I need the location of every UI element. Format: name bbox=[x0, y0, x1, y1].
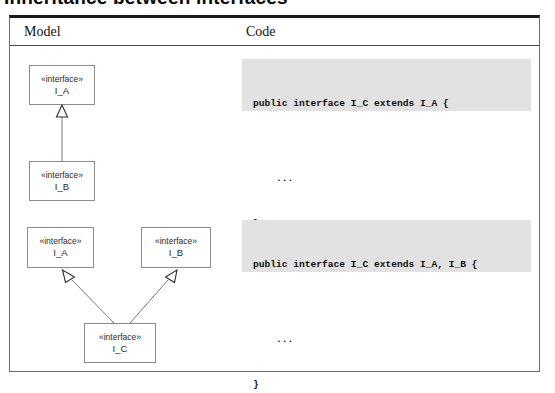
figure-heading: Inheritance between interfaces bbox=[4, 0, 288, 9]
code-line: ... bbox=[253, 332, 531, 347]
figure-frame: Model Code «interface» I_A «interface» I… bbox=[9, 15, 540, 372]
code-line: public interface I_C extends I_A, I_B { bbox=[253, 257, 531, 272]
figure-heading-clip: Inheritance between interfaces bbox=[0, 0, 555, 9]
code-line: } bbox=[253, 377, 531, 392]
code-block-multiple-inheritance: public interface I_C extends I_A, I_B { … bbox=[242, 220, 531, 272]
